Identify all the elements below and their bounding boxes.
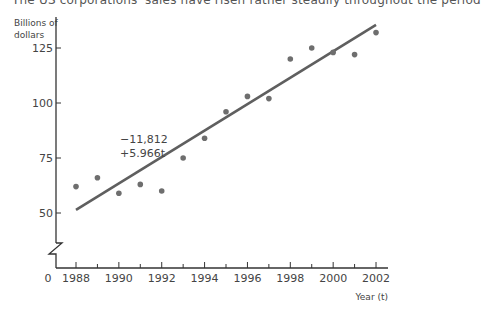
data-point: [73, 184, 79, 190]
x-tick-label: 2002: [362, 272, 390, 285]
x-tick-label: 1988: [62, 272, 90, 285]
data-point: [137, 182, 143, 188]
y-tick-label: 100: [32, 97, 53, 110]
equation-label-line1: −11,812: [120, 133, 168, 146]
x-tick-label: 1994: [191, 272, 219, 285]
axis-break-icon: [49, 243, 62, 268]
equation-label-line2: +5.966t: [120, 147, 166, 160]
x-tick-label: 2000: [319, 272, 347, 285]
data-point: [180, 155, 186, 161]
x-tick-label: 1998: [276, 272, 304, 285]
axes: [49, 17, 388, 268]
data-point: [95, 175, 101, 181]
y-axis-label: dollars: [14, 30, 44, 40]
x-tick-label: 1992: [148, 272, 176, 285]
data-point: [159, 188, 165, 194]
data-point: [352, 52, 358, 58]
data-point: [223, 109, 229, 115]
x-axis-label: Year (t): [355, 292, 388, 302]
y-tick-label: 50: [39, 207, 53, 220]
data-point: [202, 135, 208, 141]
labels: 198819901992199419961998200020020Year (t…: [14, 18, 390, 302]
x-tick-label: 1990: [105, 272, 133, 285]
data-point: [330, 50, 336, 56]
data-point: [116, 190, 122, 196]
data-points: [73, 30, 379, 196]
y-tick-label: 125: [32, 42, 53, 55]
data-point: [266, 96, 272, 102]
y-axis-label: Billions of: [14, 18, 58, 28]
data-point: [245, 94, 251, 100]
data-point: [288, 56, 294, 62]
x-origin-label: 0: [45, 272, 52, 285]
data-point: [373, 30, 379, 36]
x-tick-label: 1996: [233, 272, 261, 285]
data-point: [309, 45, 315, 51]
y-tick-label: 75: [39, 152, 53, 165]
